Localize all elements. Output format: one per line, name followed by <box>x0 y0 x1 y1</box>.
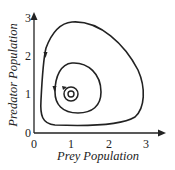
y-tick-2: 2 <box>25 49 31 63</box>
phase-plot: 0 1 2 3 0 1 2 3 Prey Population Predator… <box>0 0 175 170</box>
x-axis-arrow-icon <box>158 130 166 137</box>
y-tick-0: 0 <box>25 126 31 140</box>
innermost-orbit <box>68 91 74 97</box>
x-tick-3: 3 <box>143 137 149 151</box>
middle-orbit <box>55 63 101 113</box>
x-axis-label: Prey Population <box>56 149 139 163</box>
x-tick-0: 0 <box>31 137 37 151</box>
y-tick-1: 1 <box>25 87 31 101</box>
middle-orbit-arrow-icon <box>53 86 57 92</box>
inner-orbit <box>64 87 78 101</box>
y-axis-label: Predator Population <box>6 23 20 127</box>
y-axis-arrow-icon <box>31 12 38 20</box>
y-tick-3: 3 <box>25 11 31 25</box>
